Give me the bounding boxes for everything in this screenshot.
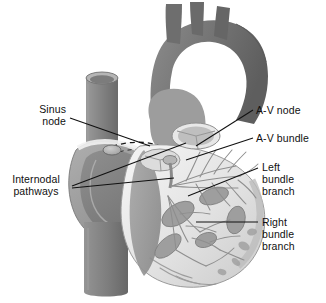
- sinoatrial-node: [103, 145, 121, 155]
- figure-canvas: Sinus node Internodal pathways A-V node …: [0, 0, 326, 303]
- brachiocephalic-trunk: [166, 4, 182, 44]
- label-left-bundle-branch: Left bundle branch: [262, 161, 324, 198]
- label-sinus-node: Sinus node: [10, 103, 66, 127]
- label-right-bundle-branch: Right bundle branch: [262, 216, 324, 253]
- label-av-node: A-V node: [256, 104, 322, 116]
- label-internodal-pathways: Internodal pathways: [2, 173, 70, 197]
- inferior-vena-cava: [84, 222, 128, 297]
- left-common-carotid-artery: [190, 2, 204, 36]
- heart-conduction-diagram: [0, 0, 326, 303]
- label-av-bundle: A-V bundle: [256, 132, 326, 144]
